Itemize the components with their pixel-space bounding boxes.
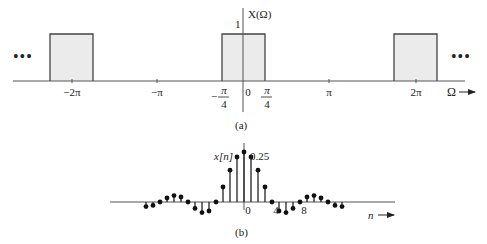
height-label: 1 — [235, 18, 241, 30]
n-axis-label: n — [368, 209, 374, 221]
stem-marker — [144, 204, 149, 209]
stem-marker — [333, 203, 338, 208]
omega-frac-numerator: π — [221, 84, 227, 96]
omega-tick-label: 0 — [245, 86, 251, 98]
caption-b: (b) — [235, 226, 248, 239]
n-tick-label: 8 — [301, 204, 307, 216]
ellipsis-right-icon: ••• — [451, 48, 471, 65]
omega-tick-label: 2π — [410, 86, 422, 98]
stem-marker — [312, 193, 317, 198]
omega-axis-label: Ω — [447, 85, 456, 99]
ellipsis-left-icon: ••• — [13, 48, 33, 65]
stem-marker — [193, 206, 198, 211]
stem-marker — [284, 210, 289, 215]
stem-marker — [214, 200, 219, 205]
stem-marker — [326, 200, 331, 205]
stem-marker — [340, 204, 345, 209]
omega-frac-denominator: 4 — [221, 98, 227, 110]
plot-b: x[n] 0.25 048 n (b) — [110, 143, 395, 239]
figure-canvas: −2π−π0π2ππ4−π4 1 X(Ω) ••• ••• Ω (a) x[n]… — [0, 0, 487, 244]
omega-tick-label: −2π — [63, 86, 81, 98]
plot-a: −2π−π0π2ππ4−π4 1 X(Ω) ••• ••• Ω (a) — [13, 8, 475, 132]
stem-marker — [221, 185, 226, 190]
omega-frac-sign: − — [211, 90, 217, 102]
stem-marker — [319, 196, 324, 201]
stem-marker — [186, 200, 191, 205]
stem-marker — [158, 200, 163, 205]
peak-value-label: 0.25 — [250, 150, 270, 162]
stem-marker — [172, 193, 177, 198]
omega-tick-label: π — [326, 86, 332, 98]
n-tick-label: 4 — [273, 204, 279, 216]
stem-marker — [207, 209, 212, 214]
stem-marker — [305, 195, 310, 200]
n-tick-label: 0 — [245, 204, 251, 216]
stem-marker — [291, 206, 296, 211]
stem-marker — [179, 195, 184, 200]
omega-tick-label: −π — [151, 86, 163, 98]
spectrum-ylabel: X(Ω) — [248, 8, 272, 21]
stem-marker — [256, 168, 261, 173]
stem-marker — [228, 168, 233, 173]
stem-marker — [200, 210, 205, 215]
stem-marker — [165, 196, 170, 201]
stem-marker — [151, 203, 156, 208]
omega-frac-numerator: π — [264, 84, 270, 96]
n-ticks: 048 — [245, 204, 307, 216]
stem-marker — [242, 150, 247, 155]
sequence-ylabel: x[n] — [213, 150, 233, 162]
stem-marker — [263, 185, 268, 190]
omega-frac-denominator: 4 — [264, 98, 270, 110]
spectrum-pulse — [394, 34, 437, 81]
caption-a: (a) — [235, 119, 248, 132]
stem-marker — [235, 155, 240, 160]
spectrum-pulse — [50, 34, 93, 81]
